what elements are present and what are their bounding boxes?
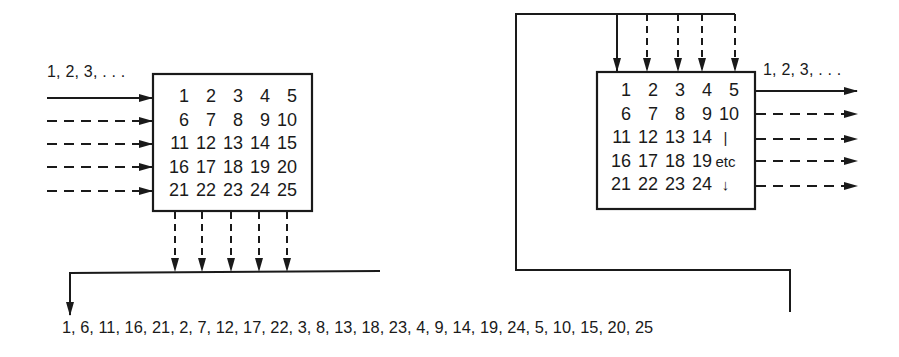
cell: 22 xyxy=(631,173,658,197)
cell: 14 xyxy=(685,126,712,150)
cell: 11 xyxy=(604,126,631,150)
cell: 10 xyxy=(712,103,739,127)
cell: 10 xyxy=(270,109,297,133)
cell: 23 xyxy=(658,173,685,197)
left-collector-bus xyxy=(70,271,380,315)
cell: 12 xyxy=(631,126,658,150)
etc-label: etc xyxy=(712,150,739,174)
cell: 5 xyxy=(270,85,297,109)
cell: 1 xyxy=(162,85,189,109)
interleaved-sequence: 1, 6, 11, 16, 21, 2, 7, 12, 17, 22, 3, 8… xyxy=(62,318,653,336)
continuation-down-arrow-icon: ↓ xyxy=(712,173,739,197)
cell: 9 xyxy=(685,103,712,127)
cell: 17 xyxy=(189,156,216,180)
cell: 11 xyxy=(162,132,189,156)
cell: 1 xyxy=(604,79,631,103)
cell: 4 xyxy=(685,79,712,103)
cell: 21 xyxy=(162,179,189,203)
cell: 2 xyxy=(189,85,216,109)
cell: 23 xyxy=(216,179,243,203)
cell: 13 xyxy=(658,126,685,150)
right-output-arrows xyxy=(756,91,857,186)
cell: 12 xyxy=(189,132,216,156)
left-input-arrows xyxy=(47,98,152,191)
right-matrix: 1 2 3 4 5 6 7 8 9 10 11 12 13 14 | 16 17… xyxy=(604,79,739,197)
cell: 13 xyxy=(216,132,243,156)
cell: 24 xyxy=(243,179,270,203)
cell: 22 xyxy=(189,179,216,203)
cell: 3 xyxy=(658,79,685,103)
cell: 16 xyxy=(162,156,189,180)
cell: 25 xyxy=(270,179,297,203)
cell: 14 xyxy=(243,132,270,156)
cell: 24 xyxy=(685,173,712,197)
cell: 6 xyxy=(604,103,631,127)
cell: 9 xyxy=(243,109,270,133)
cell: 4 xyxy=(243,85,270,109)
interleaver-diagram xyxy=(0,0,899,357)
cell: 7 xyxy=(189,109,216,133)
cell: 5 xyxy=(712,79,739,103)
right-input-arrows xyxy=(617,14,735,71)
cell: 6 xyxy=(162,109,189,133)
cell: 18 xyxy=(658,150,685,174)
cell: 16 xyxy=(604,150,631,174)
cell: 8 xyxy=(658,103,685,127)
left-matrix: 1 2 3 4 5 6 7 8 9 10 11 12 13 14 15 16 1… xyxy=(162,85,297,203)
cell: 18 xyxy=(216,156,243,180)
cell: 2 xyxy=(631,79,658,103)
cell: 8 xyxy=(216,109,243,133)
continuation-bar: | xyxy=(712,126,739,150)
cell: 20 xyxy=(270,156,297,180)
right-output-label: 1, 2, 3, . . . xyxy=(763,62,841,78)
cell: 19 xyxy=(243,156,270,180)
cell: 19 xyxy=(685,150,712,174)
cell: 3 xyxy=(216,85,243,109)
cell: 15 xyxy=(270,132,297,156)
cell: 17 xyxy=(631,150,658,174)
left-input-label: 1, 2, 3, . . . xyxy=(47,64,125,80)
cell: 7 xyxy=(631,103,658,127)
cell: 21 xyxy=(604,173,631,197)
left-output-arrows xyxy=(175,212,287,271)
